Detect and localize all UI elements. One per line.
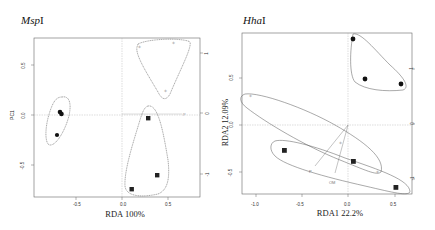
svg-text:*: * [138,44,141,51]
points-stars: *** [138,40,175,95]
chart-mspi: MspI PC1 RDA 100% 0.5 0.0 -0.5 -0.5 0.0 … [0,0,218,230]
plot-area-mspi: P *** [0,0,218,230]
points-squares [130,116,160,191]
arrow-label-p: P [183,112,186,117]
points-stars: *** [249,93,379,176]
svg-text:*: * [339,140,342,147]
plot-area-hhai: P OM *** [215,0,435,230]
svg-text:*: * [376,169,379,176]
points-circles [351,37,404,87]
biplot-arrow-p [315,125,348,166]
arrow-label-om: OM [329,180,335,185]
svg-text:*: * [249,93,252,100]
chart-hhai: HhaI RDA2 12.09% RDA1 22.2% 0.5 0.0 -0.5… [215,0,435,230]
svg-text:*: * [164,88,167,95]
biplot-arrow-om [335,125,348,173]
svg-text:*: * [172,40,175,47]
